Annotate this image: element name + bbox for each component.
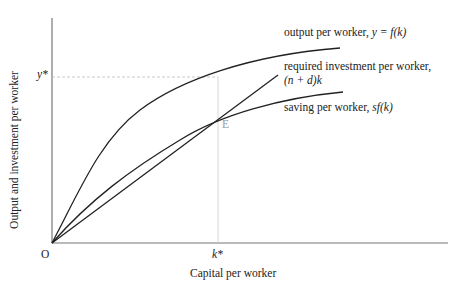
diagram-canvas [0,0,450,291]
required-investment-label: required investment per worker, [284,60,431,72]
output-curve-label: output per worker, y = f(k) [284,26,406,38]
saving-curve-label: saving per worker, sf(k) [284,101,393,113]
required-investment-line [52,75,278,243]
origin-label: O [41,248,49,260]
equilibrium-label: E [222,118,229,130]
required-investment-math: (n + d)k [284,74,322,86]
y-axis-label: Output and investment per worker [8,71,20,229]
k-star-tick: k* [212,248,223,260]
y-star-tick: y* [37,68,48,80]
saving-curve [52,92,343,243]
x-axis-label: Capital per worker [190,267,276,279]
